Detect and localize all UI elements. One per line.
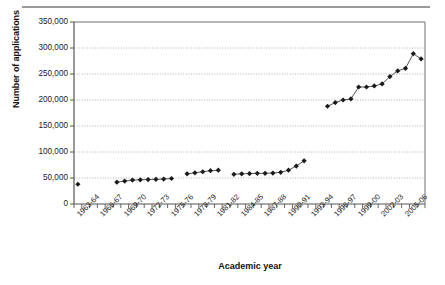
- y-tick-label: 250,000: [14, 69, 68, 78]
- y-tick-label: 200,000: [14, 95, 68, 104]
- data-point-marker: [75, 182, 80, 187]
- series-line-segment-4: [234, 161, 304, 175]
- data-point-marker: [372, 83, 377, 88]
- data-point-marker: [231, 172, 236, 177]
- y-tick-label: 350,000: [14, 17, 68, 26]
- data-point-marker: [161, 176, 166, 181]
- data-point-marker: [247, 171, 252, 176]
- data-point-marker: [364, 84, 369, 89]
- data-point-marker: [411, 51, 416, 56]
- y-tick-label: 100,000: [14, 147, 68, 156]
- data-point-marker: [294, 163, 299, 168]
- data-point-marker: [192, 170, 197, 175]
- data-point-marker: [208, 168, 213, 173]
- data-point-marker: [216, 168, 221, 173]
- data-point-marker: [200, 169, 205, 174]
- data-point-marker: [255, 171, 260, 176]
- data-point-marker: [278, 170, 283, 175]
- data-point-marker: [341, 97, 346, 102]
- chart-figure: Number of applications Academic year 050…: [0, 0, 445, 285]
- data-point-marker: [356, 84, 361, 89]
- y-tick-label: 50,000: [14, 173, 68, 182]
- y-tick-label: 300,000: [14, 43, 68, 52]
- y-tick-label: 150,000: [14, 121, 68, 130]
- data-point-marker: [270, 170, 275, 175]
- data-point-marker: [403, 66, 408, 71]
- data-point-marker: [263, 171, 268, 176]
- data-point-marker: [302, 158, 307, 163]
- series-line-segment-5: [328, 54, 422, 107]
- data-point-marker: [122, 179, 127, 184]
- data-point-marker: [185, 171, 190, 176]
- data-point-marker: [419, 56, 424, 61]
- data-point-marker: [114, 180, 119, 185]
- data-point-marker: [325, 104, 330, 109]
- data-point-marker: [239, 171, 244, 176]
- data-point-marker: [333, 100, 338, 105]
- data-point-marker: [348, 96, 353, 101]
- y-tick-label: 0: [14, 199, 68, 208]
- data-point-marker: [286, 168, 291, 173]
- data-point-marker: [169, 176, 174, 181]
- data-point-marker: [153, 177, 158, 182]
